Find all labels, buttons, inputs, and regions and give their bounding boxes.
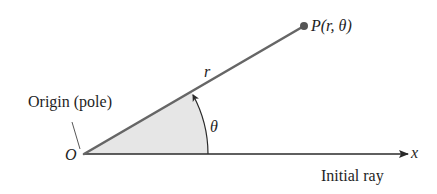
point-p-label: P(r, θ) — [310, 17, 352, 35]
initial-ray-label: Initial ray — [321, 167, 384, 185]
angle-label: θ — [210, 118, 218, 135]
x-axis-label: x — [410, 144, 418, 161]
point-p-dot — [300, 22, 308, 30]
origin-leader-line — [72, 122, 80, 149]
polar-coordinate-diagram: P(r, θ) r Origin (pole) θ O x Initial ra… — [0, 0, 437, 194]
origin-caption: Origin (pole) — [28, 93, 112, 111]
radius-label: r — [204, 63, 211, 80]
origin-label: O — [65, 146, 77, 163]
